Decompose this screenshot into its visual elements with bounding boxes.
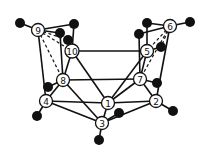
nodes-layer: 12345678910 xyxy=(32,20,177,130)
terminal-atom xyxy=(156,42,166,52)
terminal-atom xyxy=(142,18,152,28)
edge-4-1 xyxy=(46,101,108,103)
node-1: 1 xyxy=(102,97,115,110)
node-label: 1 xyxy=(105,99,111,109)
node-label: 9 xyxy=(35,26,41,36)
node-label: 8 xyxy=(60,76,66,86)
cluster-diagram: 12345678910 xyxy=(0,0,209,159)
node-6: 6 xyxy=(164,20,177,33)
edge-8-7 xyxy=(63,79,140,80)
node-label: 4 xyxy=(43,97,49,107)
node-10: 10 xyxy=(65,44,79,58)
node-label: 10 xyxy=(66,47,78,57)
terminal-atom xyxy=(168,106,178,116)
node-label: 2 xyxy=(153,97,159,107)
node-label: 6 xyxy=(167,22,173,32)
node-2: 2 xyxy=(150,95,163,108)
edge-1-2 xyxy=(108,101,156,103)
terminal-atom xyxy=(43,82,53,92)
node-3: 3 xyxy=(96,117,109,130)
terminal-atom xyxy=(69,19,79,29)
terminal-atom xyxy=(185,17,195,27)
node-4: 4 xyxy=(40,95,53,108)
terminal-atom xyxy=(55,28,65,38)
node-7: 7 xyxy=(134,73,147,86)
node-5: 5 xyxy=(141,45,154,58)
edge-4-3 xyxy=(46,101,102,123)
node-label: 7 xyxy=(137,75,143,85)
terminal-atom xyxy=(114,108,124,118)
terminal-atom xyxy=(32,111,42,121)
terminal-atom xyxy=(15,18,25,28)
terminal-atom xyxy=(152,78,162,88)
node-8: 8 xyxy=(57,74,70,87)
terminal-atom xyxy=(94,135,104,145)
node-label: 3 xyxy=(99,119,105,129)
node-9: 9 xyxy=(32,24,45,37)
node-label: 5 xyxy=(144,47,150,57)
terminal-atom xyxy=(134,29,144,39)
